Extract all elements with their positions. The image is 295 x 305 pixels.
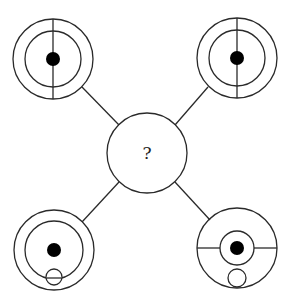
node-bottom-right bbox=[197, 208, 277, 288]
node-top-right bbox=[197, 18, 277, 98]
small-circle bbox=[228, 269, 246, 287]
connector-line-bottom-left bbox=[82, 182, 119, 222]
node-bottom-left bbox=[14, 210, 94, 290]
center-dot bbox=[230, 51, 244, 65]
connector-line-bottom-right bbox=[175, 182, 210, 220]
center-dot bbox=[46, 52, 60, 66]
center-dot bbox=[47, 243, 61, 257]
question-mark: ? bbox=[142, 143, 151, 163]
node-top-left bbox=[13, 19, 93, 99]
puzzle-diagram: ? bbox=[0, 0, 295, 305]
connector-line-top-left bbox=[82, 87, 119, 125]
connector-line-top-right bbox=[175, 87, 208, 125]
center-dot bbox=[230, 241, 244, 255]
small-circle bbox=[46, 269, 62, 285]
